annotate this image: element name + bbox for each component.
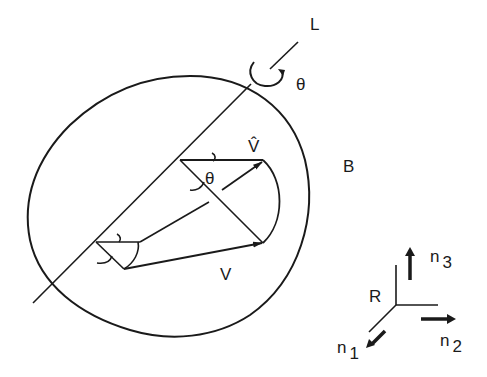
lower-arc <box>124 242 138 269</box>
n1-label: n1 <box>337 338 359 363</box>
rotation-angle-label-top: θ <box>296 75 305 94</box>
n3-arrowhead-icon <box>405 247 415 256</box>
vector-vhat-lower-segment <box>140 202 209 242</box>
vhat-label: V̂ <box>248 136 260 156</box>
lower-perp-line <box>96 242 124 269</box>
axis-label-l: L <box>310 15 319 34</box>
n2-arrowhead-icon <box>447 314 456 324</box>
frame-axis-diag <box>369 305 396 332</box>
vector-v-label: V <box>220 265 232 284</box>
body-b-outline <box>28 76 309 337</box>
perpendicular-line <box>180 160 263 243</box>
angle-tick-lower-1 <box>117 234 120 242</box>
diagram-canvas: L θ V̂ θ V B R n3 n2 n1 <box>0 0 487 377</box>
rotation-arrowhead-icon <box>278 69 285 76</box>
angle-tick-theta <box>190 182 204 190</box>
rotation-angle-label-inner: θ <box>205 169 214 188</box>
frame-label-r: R <box>369 287 381 306</box>
axis-line-l-top <box>270 42 298 69</box>
vector-v-arrow <box>124 243 262 269</box>
vector-vhat-arrow <box>222 162 262 190</box>
n2-label: n2 <box>440 331 462 356</box>
n1-arrow-icon <box>372 331 385 344</box>
angle-tick-lower-2 <box>97 256 112 263</box>
reference-frame-r: R n3 n2 n1 <box>337 247 462 363</box>
axis-line-l <box>33 84 251 303</box>
rotation-arrow-icon <box>250 62 282 86</box>
rotation-arc <box>263 160 280 243</box>
body-label-b: B <box>343 157 354 176</box>
n3-label: n3 <box>430 247 452 272</box>
